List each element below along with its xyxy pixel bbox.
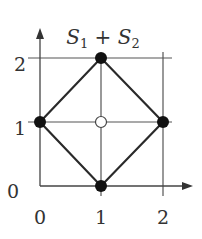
x-tick-1: 1 — [95, 206, 107, 228]
vertex-2-1 — [157, 116, 169, 128]
vertex-1-2 — [95, 52, 107, 64]
y-tick-2: 2 — [14, 53, 26, 75]
vertex-1-0 — [95, 180, 107, 192]
diagram-canvas: S1 + S2 2 1 0 0 1 2 — [0, 0, 202, 239]
vertex-0-1 — [34, 116, 46, 128]
x-axis-arrow-icon — [182, 182, 193, 190]
y-tick-1: 1 — [14, 117, 26, 139]
y-axis-arrow-icon — [36, 28, 44, 39]
x-tick-2: 2 — [157, 206, 169, 228]
y-tick-0: 0 — [7, 180, 19, 202]
interior-point-1-1 — [96, 117, 107, 128]
diagram-title: S1 + S2 — [66, 25, 139, 51]
x-tick-0: 0 — [34, 206, 46, 228]
